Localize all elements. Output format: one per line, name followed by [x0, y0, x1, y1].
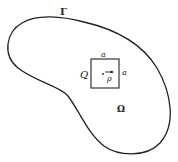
point-marker [102, 73, 104, 75]
side-top-label: a [101, 50, 106, 59]
square-q [91, 59, 119, 88]
side-right-label: a [122, 68, 127, 77]
omega-label: Ω [117, 104, 125, 114]
diagram-canvas: Γ a a Q ρ Ω [0, 0, 178, 162]
gamma-label: Γ [60, 6, 67, 17]
rho-label: ρ [106, 74, 112, 83]
square-q-label: Q [80, 69, 88, 80]
boundary-curve [8, 17, 170, 154]
